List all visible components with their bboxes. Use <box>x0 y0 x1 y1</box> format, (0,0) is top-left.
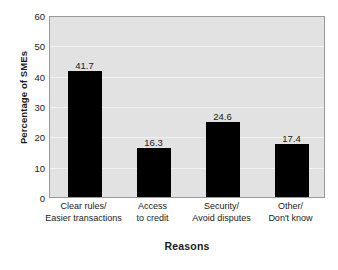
y-axis-tick-label: 60 <box>20 11 45 22</box>
y-axis-tick-labels: 0102030405060 <box>20 16 45 198</box>
x-axis-tick-label: Other/Don't know <box>244 201 337 224</box>
x-axis-tick-label-line: Other/ <box>244 201 337 213</box>
y-axis-tick-label: 50 <box>20 41 45 52</box>
bar-value-label: 24.6 <box>194 111 252 122</box>
bar <box>206 122 240 197</box>
bar <box>68 71 102 197</box>
bar-value-label: 16.3 <box>125 137 183 148</box>
x-axis-tick-label-line: Don't know <box>244 213 337 225</box>
chart-figure: Percentage of SMEs 0102030405060 41.716.… <box>0 0 338 270</box>
gridline <box>50 46 324 47</box>
x-axis-tick-labels: Clear rules/Easier transactionsAccessto … <box>49 201 325 235</box>
y-axis-tick-label: 40 <box>20 71 45 82</box>
bar <box>137 148 171 197</box>
bar <box>275 144 309 197</box>
y-axis-tick-label: 20 <box>20 132 45 143</box>
bar-value-label: 17.4 <box>263 133 321 144</box>
y-axis-tick-label: 30 <box>20 102 45 113</box>
bar-value-label: 41.7 <box>56 60 114 71</box>
plot-area: 41.716.324.617.4 <box>49 16 325 198</box>
x-axis-title: Reasons <box>49 240 325 252</box>
y-axis-tick-label: 10 <box>20 162 45 173</box>
gridline <box>50 16 324 17</box>
